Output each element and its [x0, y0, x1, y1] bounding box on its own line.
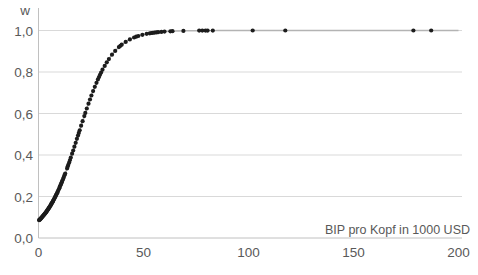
data-point — [110, 53, 114, 57]
data-point — [411, 28, 415, 32]
data-point — [128, 37, 132, 41]
y-tick-label: 0,6 — [14, 107, 33, 122]
logistic-curve — [39, 31, 459, 221]
data-point — [251, 28, 255, 32]
data-point — [283, 28, 287, 32]
y-axis-tick-labels: 0,00,20,40,60,81,0 — [14, 24, 33, 247]
data-point — [107, 57, 111, 61]
x-tick-label: 50 — [136, 245, 151, 260]
data-point — [140, 33, 144, 37]
data-point — [83, 111, 87, 115]
data-point — [120, 43, 124, 47]
data-point — [69, 155, 73, 159]
axes — [39, 8, 463, 238]
data-point — [162, 30, 166, 34]
gridlines — [39, 31, 463, 197]
data-point — [211, 29, 215, 33]
data-point — [86, 102, 90, 106]
data-points — [37, 28, 433, 222]
data-point — [89, 93, 93, 97]
data-point — [93, 85, 97, 89]
y-axis-title: w — [19, 3, 30, 18]
data-point — [136, 34, 140, 38]
chart-container: 0,00,20,40,60,81,0 050100150200 w BIP pr… — [0, 0, 478, 275]
data-point — [88, 97, 92, 101]
y-tick-label: 0,4 — [14, 148, 33, 163]
chart-svg: 0,00,20,40,60,81,0 050100150200 w BIP pr… — [0, 0, 478, 275]
x-tick-label: 100 — [237, 245, 260, 260]
x-tick-label: 200 — [447, 245, 470, 260]
data-point — [72, 145, 76, 149]
data-point — [206, 29, 210, 33]
y-tick-label: 0,8 — [14, 65, 33, 80]
x-axis-tick-labels: 050100150200 — [35, 245, 470, 260]
x-tick-label: 150 — [342, 245, 365, 260]
y-tick-label: 1,0 — [14, 24, 33, 39]
data-point — [74, 141, 78, 145]
y-tick-label: 0,0 — [14, 231, 33, 246]
data-point — [170, 29, 174, 33]
data-point — [71, 148, 75, 152]
data-point — [181, 29, 185, 33]
data-point — [113, 49, 117, 53]
y-tick-label: 0,2 — [14, 190, 33, 205]
data-point — [79, 124, 83, 128]
data-point — [81, 119, 85, 123]
data-point — [63, 172, 67, 176]
data-point — [429, 28, 433, 32]
x-axis-label: BIP pro Kopf in 1000 USD — [325, 223, 470, 237]
data-point — [124, 40, 128, 44]
x-tick-label: 0 — [35, 245, 43, 260]
data-point — [100, 68, 104, 72]
data-point — [85, 106, 89, 110]
data-point — [103, 64, 107, 68]
data-point — [78, 128, 82, 132]
data-point — [91, 89, 95, 93]
